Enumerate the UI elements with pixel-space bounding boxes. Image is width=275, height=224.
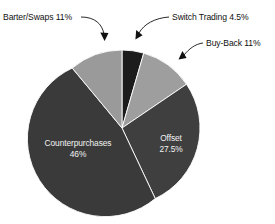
slice-label-counterpurchases-name: Counterpurchases bbox=[45, 138, 112, 148]
slice-label-counterpurchases-value: 46% bbox=[70, 149, 87, 159]
leader-arrowhead-buy-back bbox=[179, 51, 187, 60]
callout-barter-swaps: Barter/Swaps 11% bbox=[3, 12, 109, 41]
callout-label-buy-back: Buy-Back 11% bbox=[206, 38, 261, 48]
pie-chart-figure: Counterpurchases 46% Offset 27.5% Barter… bbox=[0, 0, 275, 224]
pie-chart-canvas: Counterpurchases 46% Offset 27.5% Barter… bbox=[0, 0, 275, 224]
callout-buy-back: Buy-Back 11% bbox=[179, 38, 261, 60]
leader-arrowhead-switch-trading bbox=[135, 30, 142, 39]
slice-label-offset-name: Offset bbox=[160, 133, 182, 143]
leader-line-barter-swaps bbox=[81, 17, 104, 34]
leader-line-buy-back bbox=[184, 43, 203, 55]
leader-line-switch-trading bbox=[139, 17, 169, 33]
callout-switch-trading: Switch Trading 4.5% bbox=[135, 12, 248, 40]
callout-label-switch-trading: Switch Trading 4.5% bbox=[172, 12, 249, 22]
leader-arrowhead-barter-swaps bbox=[100, 33, 108, 41]
callout-label-barter-swaps: Barter/Swaps 11% bbox=[3, 12, 72, 22]
slice-label-offset-value: 27.5% bbox=[159, 144, 183, 154]
